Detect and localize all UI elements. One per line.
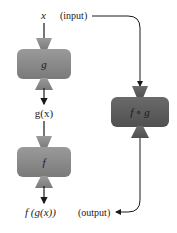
input-to-composite-arrow [92, 16, 140, 86]
input-label: (input) [60, 10, 87, 22]
output-label: (output) [78, 207, 110, 219]
function-box-composite: f ∘ g [111, 86, 169, 138]
function-box-g: g [17, 38, 71, 90]
composite-label: f ∘ g [130, 106, 150, 118]
input-variable-label: x [40, 9, 46, 21]
intermediate-label: g(x) [35, 107, 54, 120]
final-output-label: f (g(x)) [25, 206, 56, 219]
function-box-f: f [17, 136, 71, 188]
g-label: g [41, 58, 47, 70]
composite-to-output-arrow [116, 138, 140, 212]
composition-diagram: x (input) g g(x) f f (g(x)) (output) f ∘… [0, 0, 177, 233]
